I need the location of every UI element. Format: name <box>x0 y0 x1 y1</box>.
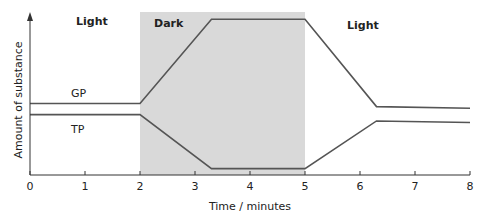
x-tick-label: 2 <box>137 180 144 193</box>
x-tick-label: 5 <box>302 180 309 193</box>
x-tick-label: 7 <box>412 180 419 193</box>
x-axis-label: Time / minutes <box>208 200 291 213</box>
dark-period-shading <box>140 12 305 175</box>
plot-area: 012345678 <box>27 12 474 193</box>
x-tick-label: 0 <box>27 180 34 193</box>
x-tick-label: 1 <box>82 180 89 193</box>
y-axis-arrow-icon <box>27 12 33 21</box>
region-label-light-1: Light <box>76 15 108 28</box>
chart: 012345678 Time / minutes Amount of subst… <box>0 0 487 219</box>
x-tick-label: 6 <box>357 180 364 193</box>
region-label-light-2: Light <box>347 19 379 32</box>
x-tick-label: 4 <box>247 180 254 193</box>
series-label-tp: TP <box>70 123 85 136</box>
x-tick-label: 3 <box>192 180 199 193</box>
x-tick-label: 8 <box>467 180 474 193</box>
y-axis-label: Amount of substance <box>12 41 25 158</box>
series-label-gp: GP <box>71 87 87 100</box>
region-label-dark: Dark <box>154 17 184 30</box>
